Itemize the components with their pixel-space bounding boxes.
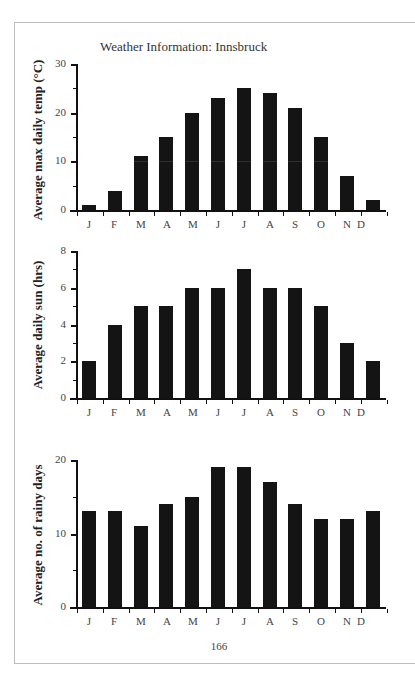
y-tick-major (71, 325, 77, 327)
x-tick-label: J (82, 406, 96, 418)
x-tick-label: N (340, 615, 354, 627)
x-tick (154, 212, 155, 216)
x-tick (232, 609, 233, 613)
x-tick-label: O (314, 615, 328, 627)
x-tick (232, 400, 233, 404)
bar-j-0 (82, 205, 96, 210)
x-tick (103, 609, 104, 613)
x-tick (129, 212, 130, 216)
x-tick (258, 212, 259, 216)
bar-m-2 (134, 156, 148, 210)
y-tick-label: 20 (46, 106, 66, 118)
x-tick-label: A (160, 218, 174, 230)
bar-a-7 (263, 93, 277, 210)
y-tick-major (71, 288, 77, 290)
x-tick-label: N (340, 406, 354, 418)
bar-n-10 (340, 343, 354, 398)
bar-a-7 (263, 482, 277, 607)
bar-a-7 (263, 288, 277, 398)
bar-m-4 (185, 497, 199, 607)
bar-s-8 (288, 288, 302, 398)
x-tick-label: D (354, 615, 368, 627)
bar-j-5 (211, 288, 225, 398)
bar-j-0 (82, 511, 96, 607)
bar-a-3 (159, 137, 173, 210)
x-tick (77, 400, 78, 404)
y-tick-minor (73, 497, 77, 498)
y-tick-label: 10 (46, 154, 66, 166)
x-tick-label: F (107, 615, 121, 627)
bar-m-2 (134, 306, 148, 398)
y-tick-major (71, 251, 77, 253)
x-tick (335, 400, 336, 404)
y-tick-label: 10 (46, 527, 66, 539)
x-tick-label: F (107, 406, 121, 418)
y-tick-label: 0 (46, 391, 66, 403)
midline (82, 161, 382, 162)
y-tick-minor (73, 137, 77, 138)
x-tick (309, 609, 310, 613)
y-tick-major (71, 64, 77, 66)
x-tick-label: J (237, 406, 251, 418)
x-axis-line (70, 210, 386, 212)
x-tick-label: J (82, 615, 96, 627)
x-tick-label: J (211, 406, 225, 418)
y-tick-minor (73, 186, 77, 187)
x-tick (283, 400, 284, 404)
y-tick-label: 4 (46, 318, 66, 330)
x-tick-label: A (160, 615, 174, 627)
page-number: 166 (204, 640, 234, 652)
x-tick (232, 212, 233, 216)
x-tick-label: O (314, 218, 328, 230)
x-tick-label: S (288, 615, 302, 627)
y-tick-minor (73, 269, 77, 270)
x-tick-label: A (160, 406, 174, 418)
x-tick-label: S (288, 218, 302, 230)
bar-j-5 (211, 467, 225, 607)
bar-d-11 (366, 361, 380, 398)
y-tick-label: 0 (46, 600, 66, 612)
x-tick (206, 400, 207, 404)
x-tick (361, 609, 362, 613)
x-tick-label: M (134, 218, 148, 230)
x-tick-label: A (263, 218, 277, 230)
x-axis-line (70, 398, 386, 400)
x-tick (335, 212, 336, 216)
x-tick-label: J (82, 218, 96, 230)
x-tick (77, 609, 78, 613)
x-tick (154, 400, 155, 404)
y-axis-label: Average daily sun (hrs) (30, 235, 46, 415)
y-tick-label: 0 (46, 203, 66, 215)
bar-o-9 (314, 306, 328, 398)
y-tick-major (71, 113, 77, 115)
y-tick-label: 20 (46, 453, 66, 465)
x-tick (206, 609, 207, 613)
x-tick (258, 400, 259, 404)
y-tick-label: 30 (46, 57, 66, 69)
y-tick-minor (73, 380, 77, 381)
x-tick-label: M (186, 218, 200, 230)
bar-j-6 (237, 269, 251, 398)
bar-s-8 (288, 108, 302, 210)
bar-n-10 (340, 176, 354, 210)
x-tick-label: D (354, 406, 368, 418)
y-tick-minor (73, 306, 77, 307)
bar-a-3 (159, 504, 173, 607)
x-tick (361, 212, 362, 216)
x-tick (258, 609, 259, 613)
x-tick (180, 609, 181, 613)
x-tick (361, 400, 362, 404)
bar-j-6 (237, 88, 251, 210)
bar-j-6 (237, 467, 251, 607)
x-tick-label: J (211, 615, 225, 627)
x-axis-line (70, 607, 386, 609)
bar-d-11 (366, 200, 380, 210)
y-tick-major (71, 460, 77, 462)
y-tick-minor (73, 343, 77, 344)
bar-f-1 (108, 325, 122, 399)
x-tick-label: M (186, 406, 200, 418)
bar-s-8 (288, 504, 302, 607)
x-tick (103, 400, 104, 404)
bar-o-9 (314, 519, 328, 607)
bar-d-11 (366, 511, 380, 607)
